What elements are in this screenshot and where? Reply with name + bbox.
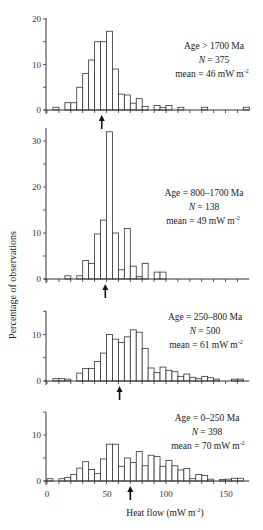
histogram-bar bbox=[160, 367, 166, 381]
y-tick-label: 0 bbox=[37, 105, 42, 115]
histogram-bar bbox=[166, 370, 172, 381]
y-axis-label: Percentage of observations bbox=[7, 231, 18, 339]
x-tick-100: 100 bbox=[159, 489, 173, 499]
panel1-n-label: N = 375 bbox=[198, 55, 230, 65]
histogram-bar bbox=[77, 468, 83, 481]
panel4-mean-label: mean = 70 mW m-2 bbox=[171, 440, 245, 451]
histogram-bar bbox=[101, 459, 107, 481]
histogram-bar bbox=[83, 368, 89, 381]
histogram-bar bbox=[77, 373, 83, 381]
mean-arrow-head-icon bbox=[127, 486, 133, 492]
histogram-bar bbox=[95, 474, 101, 481]
histogram-bar bbox=[142, 348, 148, 381]
x-tick-50: 50 bbox=[103, 489, 113, 499]
histogram-bar bbox=[172, 372, 178, 381]
histogram-bar bbox=[154, 272, 160, 279]
histogram-bar bbox=[101, 220, 107, 279]
histogram-bar bbox=[172, 466, 178, 481]
histogram-bar bbox=[184, 469, 190, 481]
histogram-bar bbox=[202, 475, 208, 481]
histogram-bar bbox=[101, 353, 107, 381]
histogram-bar bbox=[112, 444, 118, 481]
histogram-bar bbox=[160, 466, 166, 481]
histogram-bar bbox=[184, 374, 190, 381]
y-tick-label: 10 bbox=[32, 330, 42, 340]
histogram-bar bbox=[166, 105, 172, 110]
histogram-bar bbox=[71, 103, 77, 110]
panel1-age-label: Age > 1700 Ma bbox=[184, 41, 245, 51]
y-tick-label: 0 bbox=[37, 476, 42, 486]
histogram-bar bbox=[118, 270, 124, 279]
histogram-bar bbox=[190, 377, 196, 381]
histogram-bar bbox=[166, 460, 172, 481]
panel3-n-label: N = 500 bbox=[189, 326, 221, 336]
panel3-age-label: Age = 250–800 Ma bbox=[168, 312, 243, 322]
histogram-bar bbox=[196, 475, 202, 481]
histogram-bar bbox=[124, 228, 130, 279]
histogram-bar bbox=[148, 368, 154, 381]
y-tick-label: 10 bbox=[32, 60, 42, 70]
mean-arrow-head-icon bbox=[99, 115, 105, 121]
histogram-panel-2: 0102030 bbox=[32, 128, 249, 298]
panel2-age-label: Age = 800–1700 Ma bbox=[165, 188, 245, 198]
histogram-bar bbox=[202, 376, 208, 381]
histogram-bar bbox=[107, 444, 113, 481]
heat-flow-histograms: 010200102030010010 Percentage of observa… bbox=[0, 0, 263, 530]
histogram-bar bbox=[154, 457, 160, 481]
y-tick-label: 10 bbox=[32, 430, 42, 440]
panel3-mean-label: mean = 61 mW m-2 bbox=[169, 339, 243, 350]
histogram-bar bbox=[178, 376, 184, 381]
panel4-n-label: N = 398 bbox=[191, 427, 223, 437]
histogram-bar bbox=[65, 477, 71, 481]
y-tick-label: 20 bbox=[32, 182, 42, 192]
histogram-bar bbox=[124, 95, 130, 110]
histogram-bar bbox=[178, 470, 184, 481]
histogram-bar bbox=[71, 475, 77, 481]
histogram-bar bbox=[89, 368, 95, 381]
histogram-bar bbox=[83, 74, 89, 110]
histogram-bar bbox=[148, 455, 154, 481]
histogram-bar bbox=[112, 69, 118, 110]
histogram-bar bbox=[83, 462, 89, 481]
histogram-bar bbox=[95, 234, 101, 279]
histogram-bar bbox=[130, 103, 136, 110]
histogram-bar bbox=[118, 94, 124, 110]
histogram-bar bbox=[65, 103, 71, 110]
histogram-bar bbox=[89, 263, 95, 279]
histogram-bar bbox=[107, 132, 113, 279]
histogram-bar bbox=[112, 233, 118, 279]
histogram-bar bbox=[89, 470, 95, 482]
histogram-bar bbox=[130, 266, 136, 279]
y-tick-label: 0 bbox=[37, 274, 42, 284]
histogram-bar bbox=[118, 342, 124, 381]
histogram-bar bbox=[130, 330, 136, 381]
histogram-bar bbox=[142, 466, 148, 481]
histogram-bar bbox=[101, 42, 107, 110]
histogram-bar bbox=[130, 463, 136, 481]
histogram-bar bbox=[142, 263, 148, 279]
histogram-bar bbox=[154, 105, 160, 110]
histogram-bar bbox=[154, 373, 160, 381]
panel2-n-label: N = 138 bbox=[188, 202, 220, 212]
panel1-mean-label: mean = 46 mW m-2 bbox=[175, 68, 249, 79]
histogram-bar bbox=[89, 60, 95, 110]
histogram-bar bbox=[107, 335, 113, 382]
mean-arrow-head-icon bbox=[117, 386, 123, 392]
x-tick-0: 0 bbox=[45, 489, 50, 499]
mean-arrow-head-icon bbox=[102, 284, 108, 290]
y-tick-label: 0 bbox=[37, 376, 42, 386]
y-tick-label: 10 bbox=[32, 228, 42, 238]
x-tick-150: 150 bbox=[219, 489, 233, 499]
histogram-bar bbox=[107, 31, 113, 110]
histogram-bar bbox=[136, 452, 142, 481]
histogram-bar bbox=[124, 337, 130, 381]
y-tick-label: 20 bbox=[32, 14, 42, 24]
panel4-age-label: Age = 0–250 Ma bbox=[175, 413, 241, 423]
histogram-bar bbox=[124, 458, 130, 481]
histogram-bar bbox=[118, 466, 124, 481]
histogram-bar bbox=[136, 99, 142, 110]
histogram-bar bbox=[83, 261, 89, 279]
histogram-bar bbox=[77, 87, 83, 110]
histogram-bar bbox=[142, 106, 148, 110]
histogram-panel-3: 010 bbox=[32, 311, 249, 400]
